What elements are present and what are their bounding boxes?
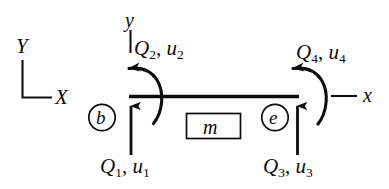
q3-force-subscript: 3 xyxy=(278,165,285,180)
q1-force-symbol: Q xyxy=(100,154,115,178)
q2-force-symbol: Q xyxy=(134,36,149,60)
u4-disp-symbol: u xyxy=(328,40,339,64)
beam-element-diagram: Y X y x b e m Q2, u2 Q4, u4 Q1, u1 Q3, u… xyxy=(0,0,389,189)
q2-separator: , xyxy=(156,36,167,60)
begin-node-label: b xyxy=(96,108,106,127)
local-x-axis-label: x xyxy=(363,85,372,105)
q3-u3-label: Q3, u3 xyxy=(263,156,313,179)
u3-disp-subscript: 3 xyxy=(306,165,313,180)
global-axes-corner-line xyxy=(23,61,52,98)
q3-force-symbol: Q xyxy=(263,154,278,178)
local-y-axis-label: y xyxy=(125,10,134,30)
u3-disp-symbol: u xyxy=(295,154,306,178)
end-node-label: e xyxy=(269,108,277,127)
u2-disp-subscript: 2 xyxy=(177,47,184,62)
u1-disp-symbol: u xyxy=(132,154,143,178)
q4-separator: , xyxy=(318,40,329,64)
q1-force-subscript: 1 xyxy=(115,165,122,180)
q1-u1-label: Q1, u1 xyxy=(100,156,150,179)
u2-disp-symbol: u xyxy=(166,36,177,60)
q2-u2-label: Q2, u2 xyxy=(134,38,184,61)
q4-u4-label: Q4, u4 xyxy=(296,42,346,65)
q1-separator: , xyxy=(122,154,133,178)
u4-disp-subscript: 4 xyxy=(339,51,346,66)
u1-disp-subscript: 1 xyxy=(143,165,150,180)
element-label: m xyxy=(203,117,217,137)
q4-force-subscript: 4 xyxy=(311,51,318,66)
q2-force-subscript: 2 xyxy=(149,47,156,62)
global-x-axis-label: X xyxy=(55,87,68,108)
q3-separator: , xyxy=(285,154,296,178)
global-y-axis-label: Y xyxy=(16,36,28,57)
q4-force-symbol: Q xyxy=(296,40,311,64)
global-axes-glyph xyxy=(23,61,52,98)
